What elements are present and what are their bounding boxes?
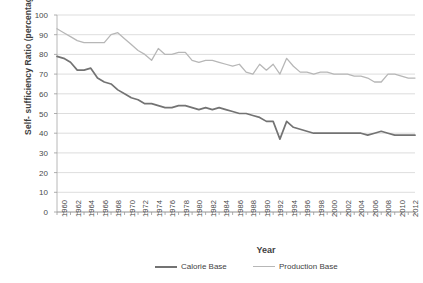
legend-swatch-production-base [253, 266, 275, 267]
x-tick-label: 1990 [263, 200, 272, 217]
x-tick-label: 1982 [209, 200, 218, 217]
x-tick-label: 1988 [249, 200, 258, 217]
legend-item-calorie-base: Calorie Base [155, 262, 227, 271]
x-tick-label: 1962 [74, 200, 83, 217]
plot-area [0, 0, 423, 283]
x-tick-label: 2008 [384, 200, 393, 217]
x-tick-label: 1972 [141, 200, 150, 217]
legend-swatch-calorie-base [155, 266, 177, 268]
x-tick-label: 1978 [182, 200, 191, 217]
chart-container: Self- sufficiency Ratio (percentage) 010… [0, 0, 423, 283]
x-tick-label: 1992 [276, 200, 285, 217]
x-tick-label: 2006 [371, 200, 380, 217]
x-tick-label: 1980 [195, 200, 204, 217]
legend-label-calorie-base: Calorie Base [181, 262, 227, 271]
x-tick-label: 1998 [317, 200, 326, 217]
x-tick-label: 2004 [357, 200, 366, 217]
series-line-calorie-base [57, 56, 415, 139]
x-axis-title: Year [236, 245, 296, 255]
x-tick-label: 1970 [128, 200, 137, 217]
x-tick-label: 2002 [344, 200, 353, 217]
legend-label-production-base: Production Base [279, 262, 338, 271]
x-tick-label: 1996 [303, 200, 312, 217]
x-tick-label: 1960 [60, 200, 69, 217]
x-tick-label: 1966 [101, 200, 110, 217]
x-tick-label: 1986 [236, 200, 245, 217]
x-tick-label: 2012 [411, 200, 420, 217]
x-tick-label: 2010 [398, 200, 407, 217]
legend-item-production-base: Production Base [253, 262, 338, 271]
x-tick-label: 1964 [87, 200, 96, 217]
x-tick-label: 1984 [222, 200, 231, 217]
x-tick-label: 1974 [155, 200, 164, 217]
x-tick-label: 1968 [114, 200, 123, 217]
x-tick-label: 1976 [168, 200, 177, 217]
x-tick-label: 2000 [330, 200, 339, 217]
x-tick-label: 1994 [290, 200, 299, 217]
